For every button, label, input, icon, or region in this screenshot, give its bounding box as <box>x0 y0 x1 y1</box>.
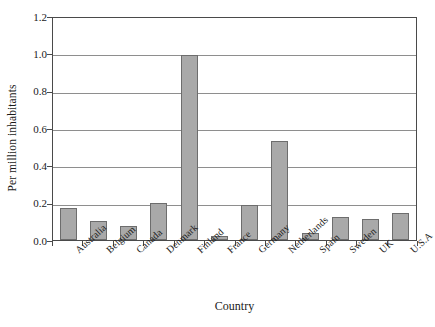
bar-slot <box>235 18 265 240</box>
x-axis-tick-label: Netherlands <box>286 247 293 255</box>
bar-slot <box>83 18 113 240</box>
y-axis-tick-label: 0.8 <box>19 86 47 97</box>
plot-area <box>52 17 417 241</box>
bar-chart: Per million inhabitants 0.00.20.40.60.81… <box>0 0 435 327</box>
y-axis-tick-label: 1.2 <box>19 12 47 23</box>
x-axis-tick-label: Denmark <box>164 247 171 255</box>
bar-slot <box>114 18 144 240</box>
x-axis-tick-label: Sweden <box>347 247 354 255</box>
bar[interactable] <box>181 55 198 240</box>
bar-slot <box>174 18 204 240</box>
bar[interactable] <box>60 208 77 240</box>
x-axis-tick-label: UK <box>377 247 384 255</box>
bar-slot <box>265 18 295 240</box>
y-axis-tick-labels: 0.00.20.40.60.81.01.2 <box>19 0 47 327</box>
bar-slot <box>53 18 83 240</box>
bar-slot <box>386 18 416 240</box>
x-axis-tick-label: Germany <box>256 247 263 255</box>
x-axis-tick-label: Australia <box>73 247 80 255</box>
y-axis-tick-label: 0.4 <box>19 161 47 172</box>
bar-slot <box>325 18 355 240</box>
y-axis-tick-label: 0.6 <box>19 124 47 135</box>
x-axis-tick-label: France <box>225 247 232 255</box>
x-axis-title: Country <box>52 299 417 313</box>
y-axis-tick-label: 1.0 <box>19 49 47 60</box>
bar-slot <box>356 18 386 240</box>
bar-slot <box>295 18 325 240</box>
x-axis-tick-label: U.S.A <box>408 247 415 255</box>
x-axis-tick-label: Spain <box>317 247 324 255</box>
y-axis-tick-label: 0.2 <box>19 198 47 209</box>
x-axis-tick-labels: AustraliaBelgiumCanadaDenmarkFinlandFran… <box>52 241 417 303</box>
x-axis-tick-label: Canada <box>134 247 141 255</box>
bar-slot <box>144 18 174 240</box>
x-axis-tick-label: Finland <box>195 247 202 255</box>
bar[interactable] <box>392 213 409 240</box>
y-axis-title: Per million inhabitants <box>4 18 20 258</box>
x-axis-tick-label: Belgium <box>104 247 111 255</box>
bar-slot <box>204 18 234 240</box>
bars-group <box>53 18 416 240</box>
y-axis-tick-label: 0.0 <box>19 236 47 247</box>
